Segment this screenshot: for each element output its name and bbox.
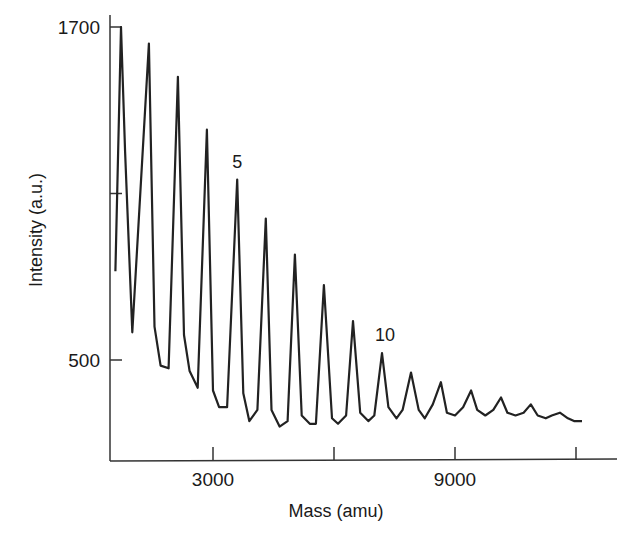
x-axis-line	[110, 459, 617, 461]
axes	[110, 15, 617, 461]
peak-label: 5	[232, 152, 242, 172]
x-ticks: 30009000	[192, 447, 576, 490]
peak-annotations: 510	[232, 152, 395, 345]
y-axis-title: Intensity (a.u.)	[26, 173, 46, 287]
x-axis-title: Mass (amu)	[288, 501, 383, 521]
mass-spectrum-chart: 1700500 30009000 510 Mass (amu) Intensit…	[0, 0, 637, 540]
y-ticks: 1700500	[58, 17, 122, 371]
x-tick-label: 9000	[434, 469, 476, 490]
spectrum-trace	[115, 27, 582, 427]
peak-label: 10	[375, 325, 395, 345]
x-tick-label: 3000	[192, 469, 234, 490]
y-tick-label: 1700	[58, 17, 100, 38]
y-tick-label: 500	[68, 350, 100, 371]
